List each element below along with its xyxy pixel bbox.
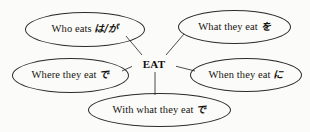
bubble-when-they-eat[interactable]: When they eat に (190, 58, 302, 92)
particle-wa-ga: は/が (94, 23, 118, 34)
particle-ni: に (273, 69, 283, 80)
bubble-where-they-eat[interactable]: Where they eat で (12, 58, 129, 93)
bubble-when-they-eat-label: When they eat に (209, 70, 284, 81)
center-node-eat[interactable]: EAT (132, 56, 176, 72)
particle-wo: を (261, 21, 271, 32)
bubble-where-they-eat-label: Where they eat で (32, 70, 110, 81)
mind-map-diagram: Who eats は/が What they eat を Where they … (0, 0, 310, 132)
bubble-with-what-they-eat-label: With what they eat で (113, 105, 207, 116)
center-node-label: EAT (143, 59, 166, 70)
bubble-who-eats[interactable]: Who eats は/が (25, 12, 145, 47)
bubble-who-eats-label: Who eats は/が (52, 24, 119, 35)
bubble-with-what-they-eat[interactable]: With what they eat で (88, 93, 231, 127)
edge-center-to-what-they-eat (166, 34, 184, 55)
bubble-what-they-eat[interactable]: What they eat を (178, 10, 291, 44)
particle-de-left: で (99, 69, 109, 80)
particle-de-bottom: で (196, 104, 206, 115)
bubble-what-they-eat-label: What they eat を (198, 22, 270, 33)
